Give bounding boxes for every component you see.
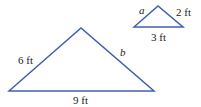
large-left-side-label: 6 ft [18, 54, 33, 66]
small-right-side-label: 2 ft [176, 6, 191, 18]
large-base-label: 9 ft [73, 94, 88, 106]
small-left-side-label: a [139, 4, 145, 16]
similar-triangles-diagram: 6 ft b 9 ft a 2 ft 3 ft [0, 0, 201, 107]
small-base-label: 3 ft [151, 31, 166, 43]
diagram-svg: 6 ft b 9 ft a 2 ft 3 ft [0, 0, 201, 107]
large-right-side-label: b [120, 46, 126, 58]
